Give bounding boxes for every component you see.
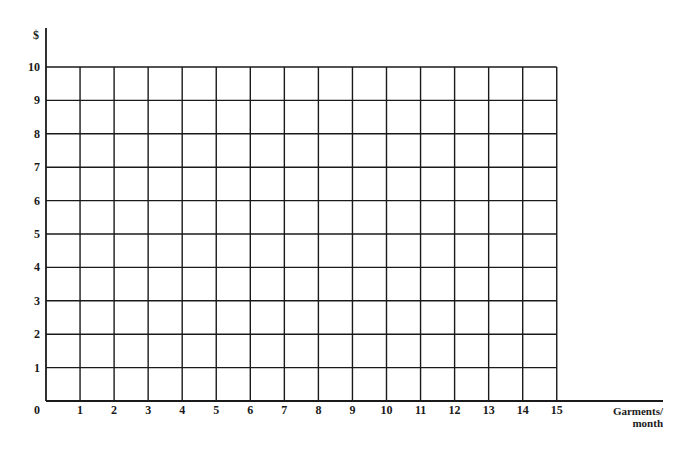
x-tick-label: 15 — [551, 403, 563, 417]
x-tick-label: 6 — [247, 403, 253, 417]
y-tick-labels: 12345678910 — [28, 60, 40, 375]
x-tick-label: 0 — [34, 403, 40, 417]
y-tick-label: 8 — [34, 127, 40, 141]
y-tick-label: 5 — [34, 227, 40, 241]
x-tick-label: 3 — [145, 403, 151, 417]
y-tick-label: 7 — [34, 160, 40, 174]
x-tick-label: 4 — [179, 403, 185, 417]
x-tick-label: 8 — [315, 403, 321, 417]
x-tick-label: 11 — [415, 403, 426, 417]
y-axis-label: $ — [33, 28, 39, 42]
x-tick-label: 1 — [77, 403, 83, 417]
x-tick-label: 14 — [517, 403, 529, 417]
x-axis-label-line1: Garments/ — [613, 405, 664, 417]
x-tick-label: 7 — [281, 403, 287, 417]
x-axis-label-line2: month — [632, 417, 663, 429]
x-tick-label: 10 — [381, 403, 393, 417]
axes — [46, 28, 663, 401]
grid-lines — [46, 67, 557, 401]
y-tick-label: 1 — [34, 361, 40, 375]
x-tick-label: 9 — [349, 403, 355, 417]
x-tick-label: 5 — [213, 403, 219, 417]
x-tick-label: 2 — [111, 403, 117, 417]
x-tick-label: 12 — [449, 403, 461, 417]
y-tick-label: 4 — [34, 260, 40, 274]
x-tick-labels: 0123456789101112131415 — [34, 403, 563, 417]
y-tick-label: 2 — [34, 327, 40, 341]
y-tick-label: 9 — [34, 93, 40, 107]
blank-graph-grid: 12345678910 0123456789101112131415 $ Gar… — [0, 0, 693, 450]
y-tick-label: 6 — [34, 194, 40, 208]
y-tick-label: 10 — [28, 60, 40, 74]
x-tick-label: 13 — [483, 403, 495, 417]
y-tick-label: 3 — [34, 294, 40, 308]
